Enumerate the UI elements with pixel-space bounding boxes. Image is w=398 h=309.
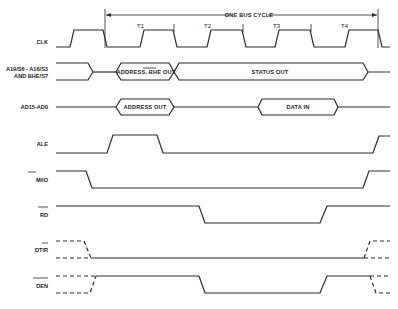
signal-label-mio: M/IO bbox=[36, 177, 49, 183]
signal-label-addr-line1: A19/S6 - A16/S3 bbox=[6, 66, 48, 72]
signal-label-addr-line2: AND BHE/S7 bbox=[14, 73, 48, 79]
signal-label-dtr: DT/R bbox=[35, 247, 48, 253]
signal-label-ad: AD15-AD0 bbox=[21, 104, 48, 110]
ad-waveform bbox=[56, 99, 390, 115]
addr-waveform bbox=[56, 63, 390, 80]
arrow-left-icon bbox=[106, 13, 111, 17]
t1-label: T1 bbox=[137, 23, 145, 29]
ale-waveform bbox=[56, 135, 390, 153]
t2-label: T2 bbox=[204, 23, 212, 29]
signal-label-ale: ALE bbox=[37, 141, 48, 147]
signal-label-den: DEN bbox=[36, 283, 48, 289]
clk-waveform bbox=[56, 30, 390, 47]
den-waveform bbox=[56, 276, 390, 293]
signal-label-clk: CLK bbox=[37, 39, 49, 45]
t4-label: T4 bbox=[341, 23, 349, 29]
dtr-waveform bbox=[56, 241, 390, 258]
rd-waveform bbox=[56, 206, 390, 223]
mio-waveform bbox=[56, 171, 390, 188]
bus-label-address-bhe-out: ADDRESS, BHE OUT bbox=[117, 69, 176, 75]
arrow-right-icon bbox=[372, 13, 377, 17]
bus-label-data-in: DATA IN bbox=[286, 104, 309, 110]
bus-cycle-span: ONE BUS CYCLE bbox=[105, 9, 378, 48]
bus-label-address-out: ADDRESS OUT bbox=[124, 104, 167, 110]
read-cycle-timing-diagram: ONE BUS CYCLE T1 T2 T3 T4 CLK A19/S6 - A… bbox=[0, 0, 398, 309]
bus-label-status-out: STATUS OUT bbox=[252, 69, 289, 75]
t3-label: T3 bbox=[273, 23, 281, 29]
t-state-markers: T1 T2 T3 T4 bbox=[137, 23, 349, 32]
bus-cycle-label: ONE BUS CYCLE bbox=[225, 12, 274, 18]
signal-label-rd: RD bbox=[40, 212, 48, 218]
